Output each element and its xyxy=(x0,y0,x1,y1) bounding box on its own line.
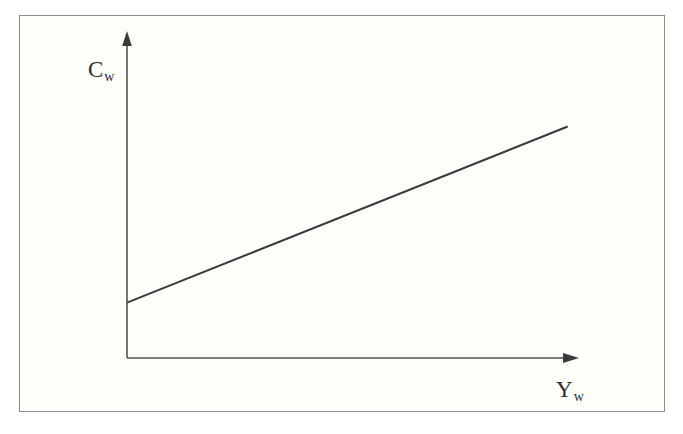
y-axis-label-subscript: w xyxy=(104,69,114,84)
y-axis-label-main: C xyxy=(88,57,103,82)
right-arrow-icon xyxy=(563,353,579,363)
consumption-function-line xyxy=(127,127,568,303)
up-arrow-icon xyxy=(122,31,132,46)
x-axis-label: Yw xyxy=(556,378,583,401)
x-axis-label-subscript: w xyxy=(574,389,584,404)
figure-page: Cw Yw xyxy=(0,0,683,434)
y-axis-label: Cw xyxy=(88,58,113,81)
x-axis-label-main: Y xyxy=(556,377,573,402)
